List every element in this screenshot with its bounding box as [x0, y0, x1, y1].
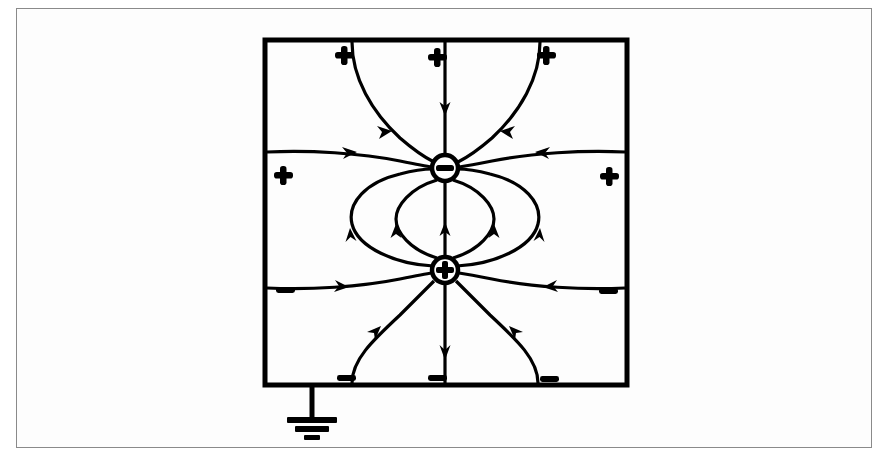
field-line-upper-left [352, 42, 434, 162]
field-line-dipole-center [440, 182, 451, 257]
induced-plus-left [274, 166, 293, 185]
induced-minus-bottom-center [428, 375, 447, 381]
induced-minus-left [276, 287, 295, 293]
field-line-diagram [0, 0, 890, 474]
induced-plus-right [600, 167, 619, 186]
induced-minus-bottom-right [540, 376, 559, 382]
field-line-lower-right [456, 281, 538, 383]
induced-minus-bottom-left [337, 375, 356, 381]
figure-root [0, 0, 890, 474]
negative-charge [432, 155, 458, 181]
positive-charge [432, 257, 458, 283]
induced-minus-right [599, 288, 618, 294]
field-line-lower-center [440, 283, 451, 385]
earth-ground-icon [287, 385, 337, 440]
field-line-upper-right [458, 42, 540, 162]
field-line-dipole-inner-left [391, 180, 438, 258]
field-line-lower-left [352, 281, 434, 383]
field-line-dipole-inner-right [453, 180, 500, 258]
field-line-left-horizontal [267, 147, 432, 167]
field-line-right-horizontal [459, 147, 625, 167]
